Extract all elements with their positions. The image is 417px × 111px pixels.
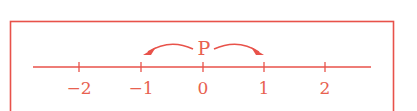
point-label-p: P	[198, 37, 211, 59]
tick-label-1: 1	[259, 78, 270, 98]
arrow-left-head-icon	[143, 47, 156, 55]
tick-label-0: 0	[198, 78, 209, 98]
number-line-diagram: −2 −1 0 1 2 P	[0, 0, 417, 111]
tick-label-2: 2	[320, 78, 331, 98]
arrow-right-head-icon	[251, 47, 264, 55]
tick-label-minus-1: −1	[128, 78, 153, 98]
tick-label-minus-2: −2	[66, 78, 91, 98]
